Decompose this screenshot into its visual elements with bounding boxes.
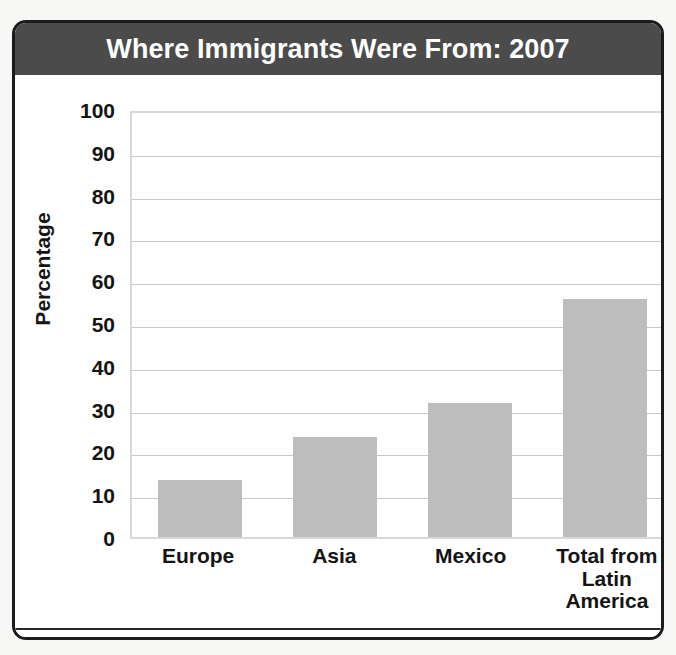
x-axis-category-label-line: Mexico — [403, 545, 539, 568]
y-axis-tick-label: 40 — [92, 356, 115, 380]
y-axis-tick-label: 80 — [92, 185, 115, 209]
chart-frame: Where Immigrants Were From: 2007 Percent… — [12, 20, 664, 640]
x-axis-category-label: Total fromLatinAmerica — [539, 545, 664, 613]
source-divider — [15, 628, 661, 630]
y-axis-tick-label: 20 — [92, 441, 115, 465]
y-axis-tick-label: 100 — [80, 99, 115, 123]
x-axis-category-label-line: Asia — [266, 545, 402, 568]
bar-group — [132, 113, 664, 537]
x-axis-category-label: Europe — [130, 545, 266, 613]
chart-body: Percentage 1009080706050403020100 Europe… — [15, 75, 661, 637]
y-axis-tick-label: 60 — [92, 270, 115, 294]
x-axis-category-label-line: Total from — [539, 545, 664, 568]
chart-title: Where Immigrants Were From: 2007 — [106, 34, 569, 65]
y-axis-title: Percentage — [31, 179, 55, 359]
y-axis-tick-label: 10 — [92, 484, 115, 508]
x-axis-category-label-line: Latin — [539, 568, 664, 591]
source-note: SOURCE: Center for Immigration Studies,U… — [37, 637, 523, 640]
bar-slot — [538, 113, 664, 537]
x-axis-category-label: Asia — [266, 545, 402, 613]
chart-title-bar: Where Immigrants Were From: 2007 — [15, 23, 661, 75]
y-axis-tick-label: 30 — [92, 399, 115, 423]
x-axis-category-label: Mexico — [403, 545, 539, 613]
x-axis-category-label-line: America — [539, 590, 664, 613]
bar — [428, 403, 512, 537]
y-axis-tick-labels: 1009080706050403020100 — [53, 111, 115, 539]
bar — [563, 299, 647, 537]
bar — [293, 437, 377, 537]
y-axis-tick-label: 90 — [92, 142, 115, 166]
chart-figure: Where Immigrants Were From: 2007 Percent… — [0, 0, 676, 655]
plot-area — [130, 111, 664, 539]
bar — [158, 480, 242, 537]
y-axis-tick-label: 50 — [92, 313, 115, 337]
y-axis-tick-label: 70 — [92, 227, 115, 251]
y-axis-tick-label: 0 — [103, 527, 115, 551]
x-axis-category-labels: EuropeAsiaMexicoTotal fromLatinAmerica — [130, 545, 664, 613]
x-axis-category-label-line: Europe — [130, 545, 266, 568]
bar-slot — [403, 113, 538, 537]
bar-slot — [132, 113, 267, 537]
bar-slot — [267, 113, 402, 537]
